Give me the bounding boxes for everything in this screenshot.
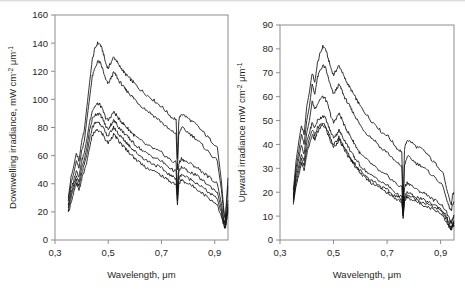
y-tick-label: 80 (262, 43, 273, 54)
page-top-edge-artifact (0, 0, 465, 3)
x-tick-label: 0,3 (273, 247, 286, 258)
x-tick-label: 0,5 (327, 247, 340, 258)
y-tick-label: 80 (37, 122, 48, 133)
y-tick-label: 40 (37, 178, 48, 189)
plot-frame (280, 25, 454, 240)
y-tick-label: 90 (262, 19, 273, 30)
figure-two-irradiance-spectra-panels: 0204060801001201401600,30,50,70,9Wavelen… (0, 0, 465, 294)
panel-upward-irradiance: 01020304050607080900,30,50,70,9Wavelengt… (232, 18, 465, 294)
y-axis-title: Downwelling irradiance, mW cm-2 μm-1 (7, 46, 18, 209)
y-tick-label: 0 (43, 234, 48, 245)
x-axis-title: Wavelength, μm (333, 269, 402, 280)
y-tick-label: 70 (262, 67, 273, 78)
y-tick-label: 40 (262, 139, 273, 150)
panel-downwelling-irradiance: 0204060801001201401600,30,50,70,9Wavelen… (0, 8, 235, 294)
x-tick-label: 0,3 (48, 247, 61, 258)
x-tick-label: 0,9 (208, 247, 221, 258)
y-tick-label: 20 (37, 206, 48, 217)
x-axis-title: Wavelength, μm (107, 269, 176, 280)
y-tick-label: 160 (32, 9, 48, 20)
y-tick-label: 60 (37, 150, 48, 161)
y-tick-label: 0 (268, 234, 273, 245)
x-tick-label: 0,7 (380, 247, 393, 258)
plot-frame (55, 15, 228, 240)
x-tick-label: 0,5 (102, 247, 115, 258)
y-tick-label: 10 (262, 211, 273, 222)
y-tick-label: 120 (32, 66, 48, 77)
x-tick-label: 0,9 (434, 247, 447, 258)
y-tick-label: 140 (32, 38, 48, 49)
x-tick-label: 0,7 (155, 247, 168, 258)
y-tick-label: 50 (262, 115, 273, 126)
y-tick-label: 60 (262, 91, 273, 102)
y-axis-title: Upward irradiance mW cm-2 μm-1 (236, 62, 247, 202)
y-tick-label: 20 (262, 187, 273, 198)
y-tick-label: 100 (32, 94, 48, 105)
y-tick-label: 30 (262, 163, 273, 174)
